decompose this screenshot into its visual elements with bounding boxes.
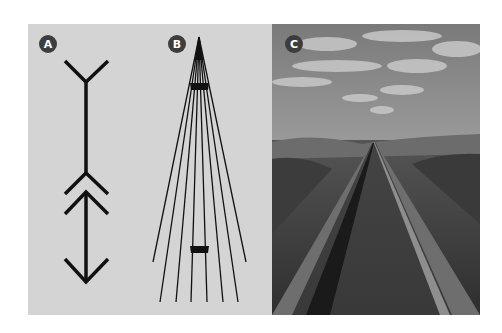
railroad-photo-panel: C [272, 24, 480, 315]
railroad-photo: C [272, 24, 480, 315]
fins-outward-top [65, 61, 108, 82]
panel-b: B [153, 35, 246, 302]
converging-line [153, 37, 199, 262]
ponzo-bar-bottom [190, 246, 209, 253]
panel-a: A [39, 35, 108, 282]
badge-a-label: A [44, 38, 53, 51]
converging-line [199, 37, 246, 262]
converging-line [199, 37, 238, 302]
illusion-diagrams: A B [0, 0, 272, 333]
ponzo-bar-top [190, 83, 209, 90]
muller-lyer-figure [65, 61, 108, 282]
converging-lines [153, 37, 246, 302]
badge-b-label: B [173, 38, 181, 51]
badge-c-label: C [290, 38, 298, 51]
